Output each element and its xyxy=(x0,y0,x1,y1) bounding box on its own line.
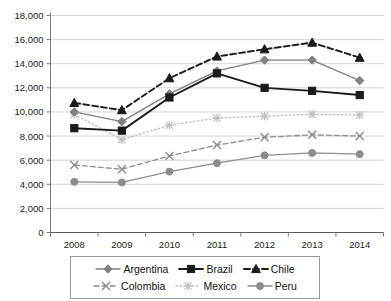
legend-item-mexico[interactable]: Mexico xyxy=(175,280,236,292)
data-point xyxy=(118,117,126,125)
chart-canvas: 02,0004,0006,0008,00010,00012,00014,0001… xyxy=(0,0,391,248)
legend-label: Brazil xyxy=(206,263,232,275)
legend-marker-icon xyxy=(256,282,263,289)
legend-swatch-brazil xyxy=(178,263,204,275)
data-point xyxy=(213,114,221,122)
data-point xyxy=(309,87,316,94)
legend-swatch-colombia xyxy=(93,280,119,292)
legend-item-argentina[interactable]: Argentina xyxy=(95,263,168,275)
data-point xyxy=(213,70,220,77)
data-point xyxy=(71,178,78,185)
legend-swatch-argentina xyxy=(95,263,121,275)
data-point xyxy=(356,111,364,119)
series-peru xyxy=(71,149,363,186)
y-axis-tick-label: 6,000 xyxy=(20,155,44,166)
data-point xyxy=(213,52,222,60)
legend-item-colombia[interactable]: Colombia xyxy=(93,280,165,292)
data-point xyxy=(260,112,268,120)
y-axis-tick-label: 16,000 xyxy=(14,34,43,45)
legend-marker-icon xyxy=(104,264,112,272)
legend-label: Argentina xyxy=(123,263,168,275)
legend-item-peru[interactable]: Peru xyxy=(247,280,297,292)
data-point xyxy=(356,151,363,158)
x-axis-tick-label: 2014 xyxy=(349,239,370,249)
data-point xyxy=(166,168,173,175)
gridlines xyxy=(51,16,384,209)
data-point xyxy=(261,152,268,159)
y-axis-labels: 02,0004,0006,0008,00010,00012,00014,0001… xyxy=(14,10,43,238)
y-axis-tick-label: 4,000 xyxy=(20,179,44,190)
legend-label: Peru xyxy=(275,280,297,292)
series-mexico xyxy=(70,110,364,144)
legend-label: Colombia xyxy=(121,280,165,292)
legend-marker-icon xyxy=(184,281,192,289)
data-point xyxy=(118,179,125,186)
line-chart: 02,0004,0006,0008,00010,00012,00014,0001… xyxy=(0,0,391,301)
data-point xyxy=(308,56,316,64)
y-axis-tick-label: 10,000 xyxy=(14,106,43,117)
data-point xyxy=(261,84,268,91)
series-line xyxy=(74,153,359,183)
legend-swatch-chile xyxy=(243,263,269,275)
y-axis-ticks xyxy=(47,16,51,233)
data-point xyxy=(214,160,221,167)
legend-marker-icon xyxy=(188,265,195,272)
x-axis-tick-label: 2013 xyxy=(302,239,323,249)
plot-area: 02,0004,0006,0008,00010,00012,00014,0001… xyxy=(0,0,391,248)
x-axis-tick-label: 2008 xyxy=(64,239,85,249)
data-point xyxy=(166,94,173,101)
y-axis-tick-label: 8,000 xyxy=(20,131,44,142)
chart-legend: ArgentinaBrazilChile ColombiaMexicoPeru xyxy=(70,256,320,299)
x-axis-tick-label: 2012 xyxy=(254,239,275,249)
legend-label: Mexico xyxy=(203,280,236,292)
axis-lines xyxy=(51,13,384,233)
y-axis-tick-label: 14,000 xyxy=(14,58,43,69)
y-axis-tick-label: 18,000 xyxy=(14,10,43,21)
legend-row-2: ColombiaMexicoPeru xyxy=(75,277,315,294)
x-axis-tick-label: 2009 xyxy=(111,239,132,249)
x-axis-ticks xyxy=(51,233,384,237)
legend-swatch-mexico xyxy=(175,280,201,292)
y-axis-tick-label: 2,000 xyxy=(20,203,44,214)
y-axis-tick-label: 12,000 xyxy=(14,82,43,93)
data-point xyxy=(356,76,364,84)
y-axis-tick-label: 0 xyxy=(38,227,43,238)
legend-row-1: ArgentinaBrazilChile xyxy=(75,260,315,277)
data-point xyxy=(71,125,78,132)
data-point xyxy=(308,110,316,118)
data-point xyxy=(165,121,173,129)
legend-label: Chile xyxy=(271,263,295,275)
data-point xyxy=(118,127,125,134)
data-point xyxy=(70,98,79,106)
x-axis-tick-label: 2011 xyxy=(207,239,227,249)
x-axis-labels: 2008200920102011201220132014 xyxy=(64,239,371,249)
x-axis-tick-label: 2010 xyxy=(159,239,180,249)
data-point xyxy=(309,149,316,156)
data-point xyxy=(118,135,126,143)
legend-item-brazil[interactable]: Brazil xyxy=(178,263,232,275)
legend-item-chile[interactable]: Chile xyxy=(243,263,295,275)
data-point xyxy=(356,91,363,98)
data-point xyxy=(260,56,268,64)
series-brazil xyxy=(71,70,364,134)
legend-swatch-peru xyxy=(247,280,273,292)
